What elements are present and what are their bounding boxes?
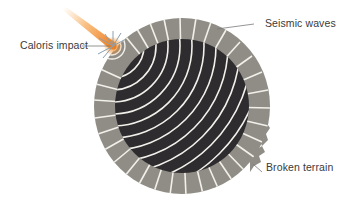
seismic-waves-label: Seismic waves bbox=[265, 17, 336, 29]
caloris-diagram: Caloris impact Seismic waves Broken terr… bbox=[0, 0, 347, 209]
broken-leader bbox=[253, 164, 262, 172]
broken-terrain-label: Broken terrain bbox=[266, 161, 333, 173]
seismic-leader bbox=[217, 24, 254, 29]
planet-illustration bbox=[0, 0, 347, 209]
caloris-impact-label: Caloris impact bbox=[20, 39, 88, 51]
